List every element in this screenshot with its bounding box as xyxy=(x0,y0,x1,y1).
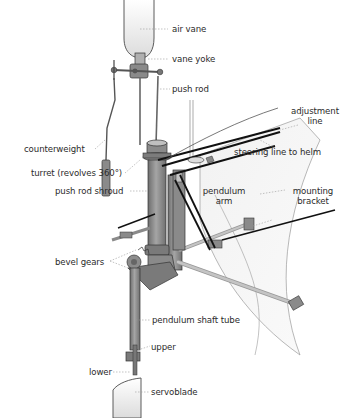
label-lower: lower xyxy=(89,367,112,377)
label-upper: upper xyxy=(151,342,176,352)
label-push-rod: push rod xyxy=(172,84,209,94)
label-adjustment-line: adjustment line xyxy=(287,106,343,126)
label-air-vane: air vane xyxy=(172,24,206,34)
label-pendulum-shaft-tube: pendulum shaft tube xyxy=(152,315,240,325)
vane-yoke xyxy=(130,53,148,78)
label-vane-yoke: vane yoke xyxy=(172,54,215,64)
servoblade xyxy=(113,378,141,418)
label-servoblade: servoblade xyxy=(151,387,198,397)
label-turret: turret (revolves 360°) xyxy=(31,168,122,178)
label-push-rod-shroud: push rod shroud xyxy=(55,186,123,196)
label-bevel-gears: bevel gears xyxy=(55,257,104,267)
label-mounting-bracket: mounting bracket xyxy=(285,186,341,206)
label-pendulum-arm: pendulum arm xyxy=(196,186,252,206)
label-steering-line: steering line to helm xyxy=(234,147,321,157)
pendulum-shaft-tube xyxy=(126,268,140,375)
label-counterweight: counterweight xyxy=(24,144,85,154)
